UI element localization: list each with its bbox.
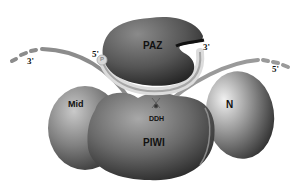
target-3prime-label: 3' <box>27 56 34 66</box>
target-5prime-label: 5' <box>272 64 279 74</box>
mid-label: Mid <box>68 99 84 109</box>
guide-3prime-label: 3' <box>203 42 210 52</box>
ddh-label: DDH <box>149 115 164 122</box>
paz-domain <box>103 17 203 86</box>
piwi-label: PIWI <box>143 137 165 148</box>
phosphate-label: P <box>100 56 104 62</box>
argonaute-diagram <box>0 0 307 192</box>
n-domain <box>200 67 280 164</box>
n-label: N <box>226 99 233 110</box>
guide-5prime-label: 5' <box>92 49 99 59</box>
paz-label: PAZ <box>143 40 162 51</box>
